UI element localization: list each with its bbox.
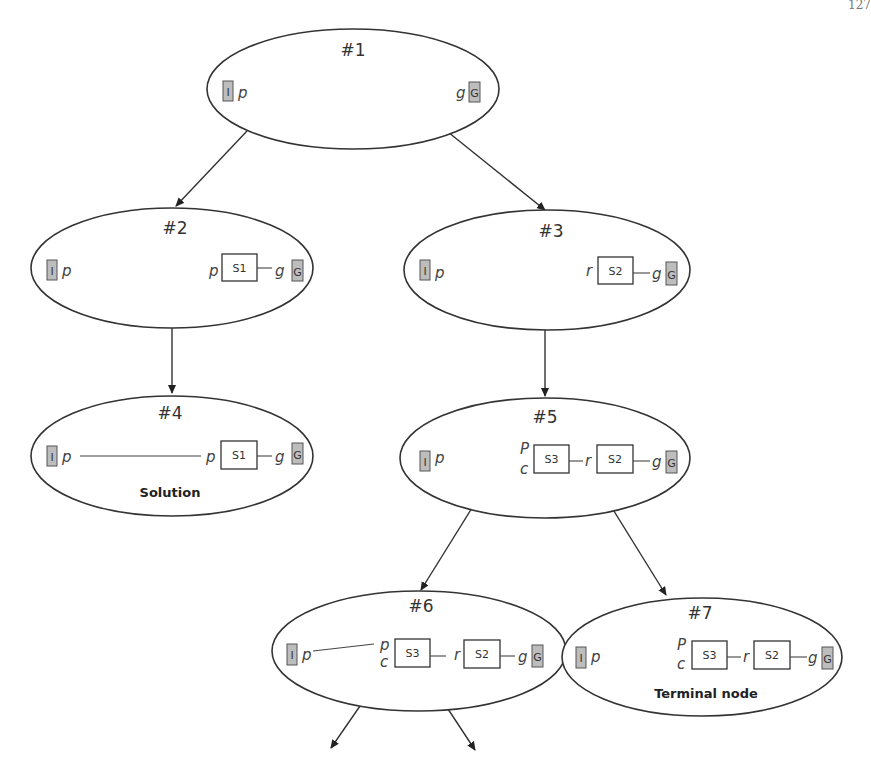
init-var: p	[237, 84, 248, 102]
node-6: #6 I p p c S3 r S2 g G	[272, 591, 566, 711]
goal-state-label: G	[533, 651, 542, 664]
init-var: p	[434, 449, 445, 467]
initial-state-label: I	[290, 649, 293, 662]
node-id: #6	[408, 596, 433, 616]
step-label: S1	[233, 262, 247, 275]
node-5: #5 I p P c S3 r S2 g G	[400, 398, 690, 518]
goal-state-label: G	[667, 457, 676, 470]
goal-var: g	[808, 649, 818, 667]
step-label: S2	[765, 649, 779, 662]
init-var: p	[301, 646, 312, 664]
init-var: p	[61, 262, 72, 280]
edge-5-6	[421, 508, 472, 590]
node-id: #4	[157, 403, 182, 423]
plan-search-tree: 127 #1 I p g G #2 I p p S1 g G	[0, 0, 871, 776]
step-label: S1	[232, 449, 246, 462]
edge-1-3	[448, 132, 545, 210]
node-id: #2	[162, 218, 187, 238]
node-caption: Solution	[140, 485, 201, 500]
step-precondition: r	[743, 648, 750, 666]
step-precondition: p	[208, 262, 219, 280]
goal-var: g	[518, 648, 528, 666]
initial-state-label: I	[423, 265, 426, 278]
goal-state-label: G	[823, 653, 832, 666]
initial-state-label: I	[50, 265, 53, 278]
init-var: p	[590, 648, 601, 666]
goal-state-label: G	[470, 87, 479, 100]
goal-state-label: G	[293, 266, 302, 279]
edge-5-7	[612, 508, 666, 595]
goal-var: g	[652, 453, 662, 471]
step-precondition: r	[454, 646, 461, 664]
goal-state-label: G	[667, 269, 676, 282]
initial-state-label: I	[579, 652, 582, 665]
goal-var: g	[456, 84, 466, 102]
node-1: #1 I p g G	[207, 29, 499, 149]
node-3: #3 I p r S2 g G	[404, 210, 690, 330]
step-label: S2	[475, 648, 489, 661]
initial-state-label: I	[50, 451, 53, 464]
node-7: #7 I p P c S3 r S2 g G Terminal node	[562, 598, 842, 716]
goal-state-label: G	[293, 449, 302, 462]
step-label: S2	[608, 453, 622, 466]
node-id: #3	[538, 221, 563, 241]
goal-var: g	[652, 265, 662, 283]
edge-1-2	[176, 131, 247, 206]
initial-state-label: I	[226, 86, 229, 99]
step-precondition-top: p	[379, 636, 390, 654]
step-label: S2	[609, 265, 623, 278]
step-precondition: p	[205, 448, 216, 466]
step-label: S3	[703, 649, 717, 662]
step-precondition-bottom: c	[380, 653, 389, 671]
init-var: p	[61, 448, 72, 466]
goal-var: g	[275, 448, 285, 466]
edge-6-child-right	[448, 709, 475, 750]
node-id: #7	[687, 603, 712, 623]
step-label: S3	[545, 453, 559, 466]
step-precondition-top: P	[520, 440, 530, 458]
node-2: #2 I p p S1 g G	[31, 208, 313, 328]
node-id: #5	[532, 407, 557, 427]
initial-state-label: I	[423, 456, 426, 469]
goal-var: g	[275, 262, 285, 280]
step-precondition: r	[586, 262, 593, 280]
node-caption: Terminal node	[654, 686, 758, 701]
step-precondition-bottom: c	[520, 460, 529, 478]
step-precondition-bottom: c	[677, 655, 686, 673]
page-number: 127	[848, 0, 871, 12]
edge-6-child-left	[331, 706, 360, 748]
init-var: p	[434, 264, 445, 282]
node-id: #1	[340, 40, 365, 60]
node-4: #4 I p p S1 g G Solution	[31, 396, 313, 516]
step-precondition-top: P	[677, 636, 687, 654]
step-precondition: r	[585, 452, 592, 470]
step-label: S3	[406, 647, 420, 660]
